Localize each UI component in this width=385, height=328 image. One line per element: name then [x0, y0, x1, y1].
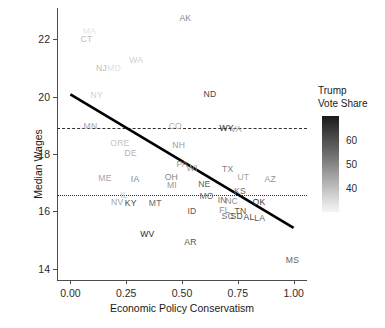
x-tick-mark	[70, 280, 71, 284]
x-tick-mark	[294, 280, 295, 284]
data-point-label: IA	[131, 174, 140, 184]
data-point-label: KS	[234, 186, 246, 196]
data-point-label: CO	[169, 121, 182, 131]
x-tick-label: 0.75	[228, 287, 248, 299]
legend-tick-label: 60	[346, 135, 357, 146]
y-tick-mark	[53, 269, 57, 270]
data-point-label: HI	[73, 120, 82, 130]
data-point-label: WA	[129, 55, 143, 65]
data-point-label: KY	[125, 198, 137, 208]
y-tick-label: 16	[38, 205, 50, 217]
data-point-label: TX	[222, 164, 233, 174]
y-tick-label: 14	[38, 263, 50, 275]
x-tick-mark	[126, 280, 127, 284]
legend-gradient-bar	[322, 116, 339, 212]
x-tick-label: 0.00	[60, 287, 80, 299]
data-point-label: NH	[172, 140, 185, 150]
data-point-label: DE	[124, 148, 136, 158]
data-point-label: AK	[179, 13, 191, 23]
data-point-label: ID	[188, 206, 197, 216]
y-tick-mark	[53, 97, 57, 98]
x-tick-label: 1.00	[283, 287, 303, 299]
y-tick-mark	[53, 154, 57, 155]
legend-tick-mark	[339, 140, 342, 141]
legend-title-line1: Trump	[318, 85, 384, 98]
y-axis-line	[57, 8, 58, 280]
data-point-label: VA	[230, 124, 241, 134]
plot-panel: 1416182022 0.000.250.500.751.00 AKMACTWA…	[57, 8, 307, 280]
data-point-label: AL	[243, 212, 254, 222]
data-point-label: WV	[140, 229, 154, 239]
x-tick-mark	[182, 280, 183, 284]
data-point-label: UT	[237, 172, 249, 182]
x-tick-label: 0.50	[172, 287, 192, 299]
y-axis-title: Median Wages	[32, 129, 44, 199]
legend: Trump Vote Share 605040	[318, 85, 384, 212]
y-tick-label: 22	[38, 33, 50, 45]
data-point-label: MO	[199, 191, 213, 201]
x-tick-mark	[238, 280, 239, 284]
legend-title-line2: Vote Share	[318, 98, 384, 111]
data-point-label: NY	[91, 90, 103, 100]
y-tick-mark	[53, 211, 57, 212]
legend-colorbar-body: 605040	[318, 116, 384, 212]
legend-title: Trump Vote Share	[318, 85, 384, 110]
data-point-label: AR	[184, 237, 196, 247]
data-point-label: WI	[187, 163, 198, 173]
legend-tick-label: 50	[346, 159, 357, 170]
y-tick-mark	[53, 39, 57, 40]
y-tick-label: 20	[38, 91, 50, 103]
legend-tick-label: 40	[346, 183, 357, 194]
data-point-label: MI	[167, 180, 177, 190]
data-point-label: ME	[98, 173, 111, 183]
data-point-label: LA	[254, 213, 265, 223]
dotted-reference-line	[57, 195, 307, 196]
x-tick-label: 0.25	[116, 287, 136, 299]
data-point-label: SD	[231, 211, 243, 221]
legend-tick-mark	[339, 188, 342, 189]
scatter-plot-figure: Median Wages Economic Policy Conservatis…	[0, 0, 385, 328]
data-point-label: OK	[253, 197, 266, 207]
data-point-label: MN	[84, 121, 98, 131]
data-point-label: AZ	[264, 174, 275, 184]
x-axis-title: Economic Policy Conservatism	[57, 302, 307, 314]
data-point-label: NJ	[96, 63, 107, 73]
data-point-label: MS	[286, 255, 299, 265]
data-point-label: MT	[149, 198, 162, 208]
data-point-label: NE	[198, 179, 210, 189]
data-point-label: NV	[111, 197, 123, 207]
y-tick-label: 18	[38, 148, 50, 160]
legend-tick-mark	[339, 164, 342, 165]
data-point-label: MD	[107, 63, 121, 73]
data-point-label: ND	[203, 89, 216, 99]
data-point-label: CT	[81, 34, 93, 44]
